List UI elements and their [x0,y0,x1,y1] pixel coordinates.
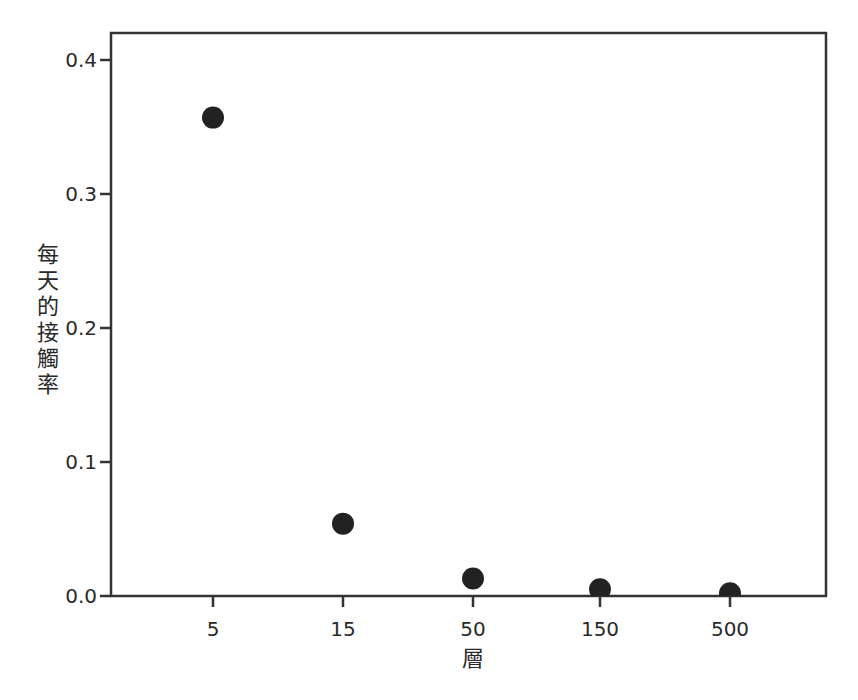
y-tick-label: 0.4 [65,48,97,72]
x-tick-label: 500 [711,617,749,641]
data-point [332,513,354,535]
clipped-caption [20,693,838,700]
data-point [462,568,484,590]
y-axis-title-char: 率 [37,372,59,397]
x-tick-label: 150 [581,617,619,641]
y-axis-title: 每天的接觸率 [37,242,59,397]
y-axis-title-char: 天 [37,268,59,293]
scatter-chart: 0.00.10.20.30.4 51550150500 層 每天的接觸率 [0,0,858,700]
x-tick-label: 15 [330,617,355,641]
y-tick-label: 0.3 [65,182,97,206]
y-axis: 0.00.10.20.30.4 [65,48,111,608]
y-tick-label: 0.0 [65,584,97,608]
y-axis-title-char: 接 [37,320,59,345]
x-axis: 51550150500 [207,596,749,641]
y-axis-title-char: 每 [37,242,59,267]
y-axis-title-char: 的 [37,294,59,319]
x-axis-title: 層 [462,646,484,671]
y-tick-label: 0.1 [65,450,97,474]
x-tick-label: 50 [460,617,485,641]
x-tick-label: 5 [207,617,220,641]
data-points [202,107,741,605]
data-point [202,107,224,129]
y-tick-label: 0.2 [65,316,97,340]
y-axis-title-char: 觸 [37,346,59,371]
